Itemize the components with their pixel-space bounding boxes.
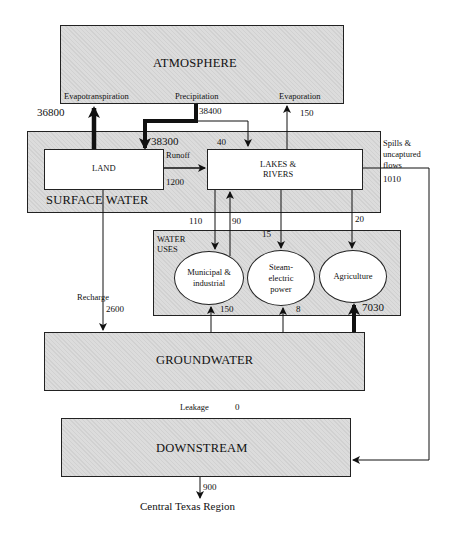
recharge-label: Recharge xyxy=(77,292,109,302)
runoff-value: 1200 xyxy=(166,177,184,187)
gw-to-steam-value: 8 xyxy=(296,304,301,314)
precip-to-land-value: 38300 xyxy=(151,135,179,147)
lakes-to-agriculture-value: 20 xyxy=(355,214,364,224)
evapotranspiration-value: 36800 xyxy=(37,106,65,118)
lakes-to-steam-value: 15 xyxy=(262,229,271,239)
recharge-value: 2600 xyxy=(106,304,124,314)
precip-to-lakes-value: 40 xyxy=(217,137,226,147)
flow-arrows xyxy=(0,0,455,540)
spills-value: 1010 xyxy=(383,174,401,184)
runoff-label: Runoff xyxy=(166,150,190,160)
municipal-return-value: 90 xyxy=(232,216,241,226)
leakage-label: Leakage xyxy=(180,402,209,412)
gw-to-agriculture-value: 7030 xyxy=(362,301,384,313)
lakes-to-municipal-value: 110 xyxy=(189,216,202,226)
evaporation-value: 150 xyxy=(300,108,314,118)
leakage-value: 0 xyxy=(235,402,240,412)
gw-to-municipal-value: 150 xyxy=(220,304,234,314)
spills-label: Spills & uncaptured flows xyxy=(383,138,421,171)
downstream-out-value: 900 xyxy=(203,482,217,492)
precipitation-value: 38400 xyxy=(199,106,222,116)
